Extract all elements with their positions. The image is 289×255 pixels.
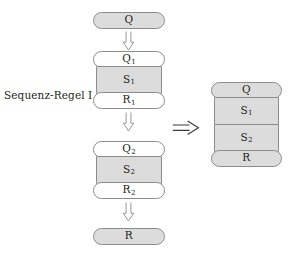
premise-block1-statement-base: S: [123, 73, 130, 85]
premise-block1-statement-node: S1: [96, 66, 162, 94]
conclusion-postcondition-base: R: [242, 151, 250, 163]
conclusion-statement2-base: S: [240, 131, 247, 143]
conclusion-postcondition-node: R: [211, 150, 282, 167]
premise-precondition-base: Q: [125, 13, 134, 25]
premise-block2-postcondition-label: R2: [123, 184, 136, 197]
premise-precondition-label: Q: [125, 14, 134, 27]
conclusion-statement1-sub: 1: [248, 109, 252, 117]
premise-block1-postcondition-label: R1: [123, 94, 136, 107]
premise-block1-statement-label: S1: [123, 74, 135, 87]
conclusion-statement2-node: S2: [214, 124, 279, 152]
premise-block1-postcondition-node: R1: [93, 92, 165, 109]
premise-block1-postcondition-base: R: [123, 93, 131, 105]
conclusion-statement2-label: S2: [240, 132, 252, 145]
conclusion-statement1-label: S1: [240, 105, 252, 118]
conclusion-statement1-node: S1: [214, 97, 279, 125]
premise-block1-precondition-label: Q1: [122, 53, 135, 66]
premise-block2-postcondition-base: R: [123, 183, 131, 195]
down-double-arrow-icon-2: [122, 112, 135, 132]
premise-block2-precondition-label: Q2: [122, 143, 135, 156]
rule-label: Sequenz-Regel I: [4, 89, 90, 101]
premise-block2-statement-label: S2: [123, 164, 135, 177]
right-double-arrow-icon: [172, 120, 200, 136]
premise-block2-statement-base: S: [123, 163, 130, 175]
conclusion-precondition-label: Q: [242, 84, 251, 97]
conclusion-statement1-base: S: [240, 104, 247, 116]
down-double-arrow-icon-1: [122, 31, 135, 51]
diagram-canvas: Sequenz-Regel I Q Q1 S1 R1 Q2 S2 R2: [0, 0, 289, 255]
premise-postcondition-label: R: [125, 230, 133, 243]
premise-block1-postcondition-sub: 1: [131, 99, 135, 107]
premise-block2-precondition-sub: 2: [131, 148, 135, 156]
premise-block2-postcondition-node: R2: [93, 182, 165, 199]
premise-block2-precondition-base: Q: [122, 142, 131, 154]
premise-postcondition-node: R: [93, 228, 165, 245]
conclusion-postcondition-label: R: [242, 152, 250, 165]
premise-block2-postcondition-sub: 2: [131, 189, 135, 197]
premise-block1-precondition-base: Q: [122, 52, 131, 64]
premise-block1-statement-sub: 1: [131, 78, 135, 86]
premise-precondition-node: Q: [93, 12, 165, 29]
premise-block2-statement-node: S2: [96, 156, 162, 184]
premise-postcondition-base: R: [125, 229, 133, 241]
down-double-arrow-icon-3: [122, 202, 135, 222]
premise-block1-precondition-sub: 1: [131, 58, 135, 66]
conclusion-precondition-base: Q: [242, 83, 251, 95]
premise-block2-statement-sub: 2: [131, 168, 135, 176]
conclusion-statement2-sub: 2: [248, 136, 252, 144]
